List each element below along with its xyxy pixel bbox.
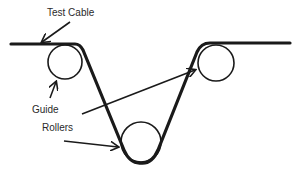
left-guide-roller (48, 45, 82, 79)
rollers-label: Rollers (42, 123, 73, 133)
guide-label: Guide (32, 105, 59, 115)
test-cable-label: Test Cable (47, 8, 94, 18)
rollers-arrow-bottom-roller (64, 141, 118, 147)
test-cable-roller-diagram (0, 0, 299, 174)
test-cable-arrow (42, 22, 70, 42)
guide-arrow-left-roller (50, 82, 56, 98)
right-guide-roller (198, 45, 234, 81)
